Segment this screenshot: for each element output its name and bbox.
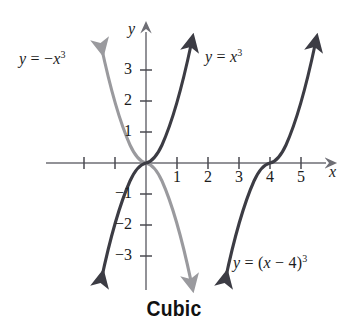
y-tick-minus-2: −2 xyxy=(111,215,136,233)
shifted-minus-four: − 4 xyxy=(275,254,297,271)
x-tick-5: 5 xyxy=(294,168,308,186)
neg-cubic-equals: = xyxy=(31,50,40,67)
cubic-exponent: 3 xyxy=(237,47,242,58)
x-tick-2: 2 xyxy=(201,168,215,186)
y-axis-label: y xyxy=(128,20,135,38)
neg-cubic-base: x xyxy=(53,50,60,67)
label-shifted-cubic: y = (x − 4)3 xyxy=(233,254,307,272)
y-tick-minus-1: −1 xyxy=(111,184,136,202)
shifted-base: x xyxy=(263,254,270,271)
shifted-equals: = xyxy=(245,254,254,271)
figure-caption: Cubic xyxy=(21,296,327,322)
neg-cubic-exponent: 3 xyxy=(61,49,66,60)
cubic-equals: = xyxy=(217,48,226,65)
y-tick-3: 3 xyxy=(120,60,136,78)
label-cubic: y = x3 xyxy=(205,48,242,66)
label-negative-cubic: y = −x3 xyxy=(19,50,66,68)
y-tick-2: 2 xyxy=(120,91,136,109)
x-tick-3: 3 xyxy=(232,168,246,186)
x-tick-4: 4 xyxy=(263,168,277,186)
y-tick-1: 1 xyxy=(120,122,136,140)
x-tick-1: 1 xyxy=(170,168,184,186)
shifted-exponent: 3 xyxy=(302,253,307,264)
y-tick-minus-3: −3 xyxy=(111,246,136,264)
x-axis-label: x xyxy=(329,163,336,181)
neg-cubic-sign: − xyxy=(44,50,53,67)
cubic-function-figure: x y 1 2 3 4 5 3 2 1 −1 −2 −3 y = −x3 y =… xyxy=(0,0,348,336)
